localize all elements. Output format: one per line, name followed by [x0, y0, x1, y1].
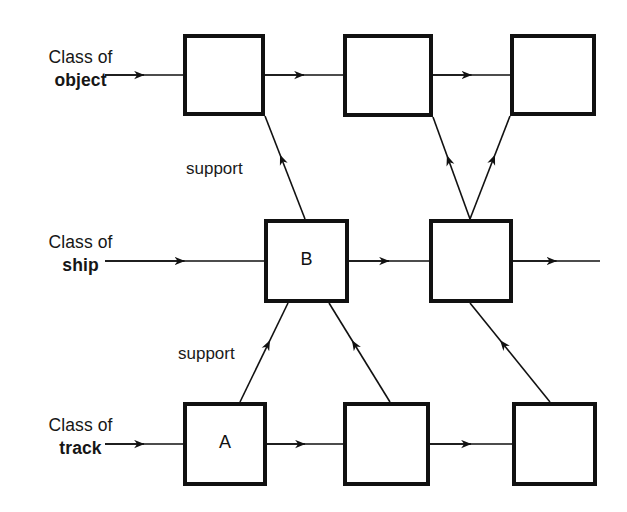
- support-ship2-to-object3: [470, 116, 510, 219]
- support-track1-to-ship1: [240, 303, 288, 402]
- box-ship-2[interactable]: [431, 221, 511, 301]
- row-label-track: Class oftrack: [28, 414, 133, 460]
- row-label-object: Class ofobject: [28, 46, 133, 92]
- edge-label-support-upper: support: [186, 159, 243, 179]
- box-track-2[interactable]: [345, 404, 428, 484]
- support-ship1-to-object1: [265, 116, 305, 219]
- box-layer: [185, 36, 595, 484]
- box-object-2[interactable]: [345, 36, 431, 115]
- row-label-track-line2: track: [28, 437, 133, 460]
- row-label-ship-line1: Class of: [28, 231, 133, 254]
- connector-layer: [105, 75, 600, 444]
- box-label-track-1: A: [183, 432, 267, 453]
- row-label-track-line1: Class of: [28, 414, 133, 437]
- row-label-ship: Class ofship: [28, 231, 133, 277]
- box-object-3[interactable]: [512, 36, 594, 114]
- diagram-canvas: Class ofobjectClass ofshipBClass oftrack…: [0, 0, 627, 512]
- box-track-3[interactable]: [514, 404, 595, 484]
- row-label-object-line2: object: [28, 69, 133, 92]
- edge-label-support-lower: support: [178, 344, 235, 364]
- row-label-object-line1: Class of: [28, 46, 133, 69]
- support-track2-to-ship1: [329, 303, 390, 402]
- box-object-1[interactable]: [185, 36, 263, 114]
- row-label-ship-line2: ship: [28, 254, 133, 277]
- box-label-ship-1: B: [264, 249, 349, 270]
